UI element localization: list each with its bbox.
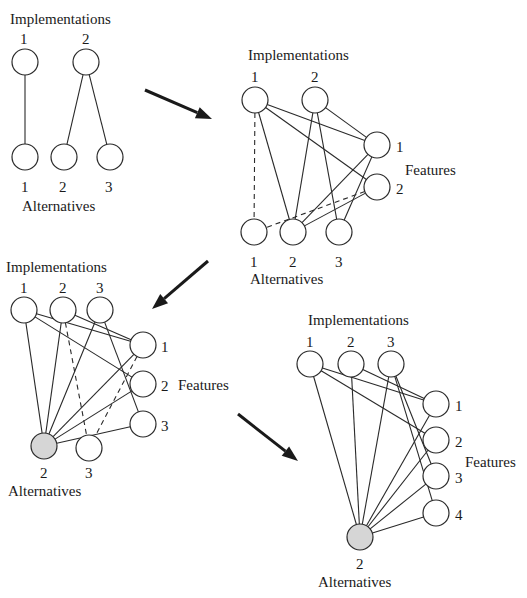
node-label: 2 (59, 179, 67, 195)
edge-i2-a2 (352, 377, 360, 524)
implementation-node-2: 2 (302, 69, 328, 113)
node-label: 1 (396, 139, 404, 155)
features-heading: Features (405, 162, 456, 178)
feature-node-3: 3 (423, 463, 463, 489)
node-circle (423, 391, 449, 417)
edge-i1-f2 (266, 108, 367, 180)
edge-f3-a2 (370, 484, 426, 529)
node-label: 2 (455, 434, 463, 450)
feature-node-2: 2 (130, 371, 169, 397)
node-circle (297, 351, 323, 377)
edge-i1-a1-dashed (254, 113, 255, 219)
implementation-node-2: 2 (338, 334, 364, 377)
node-circle (130, 411, 156, 437)
edge-i1-a2 (314, 376, 357, 524)
node-circle (302, 87, 328, 113)
alternative-node-3: 3 (326, 219, 352, 270)
alternatives-heading: Alternatives (250, 271, 323, 287)
node-circle (378, 351, 404, 377)
edge-i1-f1 (36, 314, 130, 342)
panel-1: 12123ImplementationsAlternatives (10, 11, 123, 214)
node-label: 3 (387, 334, 395, 350)
alternative-node-2: 2 (347, 524, 373, 572)
alternative-node-2: 2 (31, 433, 57, 481)
node-circle (242, 87, 268, 113)
panel-3: 12312323ImplementationsAlternativesFeatu… (6, 259, 229, 499)
selected-node-circle (31, 433, 57, 459)
node-circle (364, 174, 390, 200)
node-circle (241, 219, 267, 245)
alternative-node-3: 3 (76, 435, 102, 481)
alternative-node-2: 2 (51, 144, 77, 195)
node-circle (423, 427, 449, 453)
alternatives-heading: Alternatives (22, 198, 95, 214)
arrow-1-to-2 (145, 90, 212, 119)
implementations-heading: Implementations (10, 11, 111, 27)
node-circle (130, 332, 156, 358)
implementation-node-1: 1 (11, 280, 37, 323)
alternatives-heading: Alternatives (318, 574, 391, 590)
implementation-node-3: 3 (87, 280, 113, 323)
node-label: 2 (289, 254, 297, 270)
node-label: 2 (356, 556, 364, 572)
edge-i1-a2 (26, 323, 42, 433)
edges (314, 368, 433, 533)
feature-node-2: 2 (423, 427, 463, 453)
implementation-node-2: 2 (50, 280, 76, 323)
implementations-heading: Implementations (6, 259, 107, 275)
node-circle (423, 463, 449, 489)
node-circle (50, 297, 76, 323)
feature-node-1: 1 (130, 332, 169, 358)
edge-i2-a3 (89, 75, 107, 145)
selected-node-circle (347, 524, 373, 550)
node-label: 1 (306, 334, 314, 350)
implementations-heading: Implementations (308, 312, 409, 328)
node-label: 2 (40, 465, 48, 481)
node-label: 1 (455, 398, 463, 414)
node-circle (423, 500, 449, 526)
node-circle (326, 219, 352, 245)
node-label: 2 (396, 181, 404, 197)
node-label: 3 (455, 470, 463, 486)
node-circle (12, 49, 38, 75)
node-label: 1 (250, 254, 258, 270)
implementation-node-1: 1 (242, 69, 268, 113)
edge-f2-a1-dashed (266, 191, 365, 227)
edge-i2-a2 (295, 113, 313, 219)
features-heading: Features (465, 454, 516, 470)
edge-i2-f1 (326, 108, 367, 138)
arrow-shaft (164, 261, 208, 299)
edge-i3-a2 (362, 377, 388, 524)
node-circle (280, 219, 306, 245)
feature-node-1: 1 (423, 391, 463, 417)
edges (25, 75, 107, 145)
node-label: 3 (96, 280, 104, 296)
node-label: 1 (20, 280, 28, 296)
implementation-node-3: 3 (378, 334, 404, 377)
panel-4: 12312342ImplementationsAlternativesFeatu… (297, 312, 516, 590)
edge-i1-f2 (35, 317, 132, 377)
feature-node-4: 4 (423, 500, 463, 526)
edge-i2-a2 (46, 323, 61, 433)
node-circle (364, 132, 390, 158)
edge-f2-a2 (55, 391, 132, 439)
node-circle (12, 144, 38, 170)
node-label: 4 (455, 507, 463, 523)
edge-f1-a2 (366, 415, 429, 525)
edge-f2-a2 (368, 450, 428, 527)
node-label: 3 (85, 465, 93, 481)
node-label: 1 (251, 69, 259, 85)
node-circle (338, 351, 364, 377)
node-label: 1 (20, 31, 28, 47)
edge-f4-a2 (372, 517, 423, 533)
workflow-diagram: 12123ImplementationsAlternatives1212123I… (0, 0, 527, 598)
panel-2: 1212123ImplementationsAlternativesFeatur… (241, 47, 456, 287)
edge-i3-f3 (396, 376, 431, 464)
node-label: 3 (161, 418, 169, 434)
node-label: 2 (82, 31, 90, 47)
node-label: 2 (347, 334, 355, 350)
edges (26, 314, 139, 444)
arrow-shaft (145, 90, 197, 113)
feature-node-2: 2 (364, 174, 404, 200)
edge-i1-a2 (259, 112, 290, 219)
